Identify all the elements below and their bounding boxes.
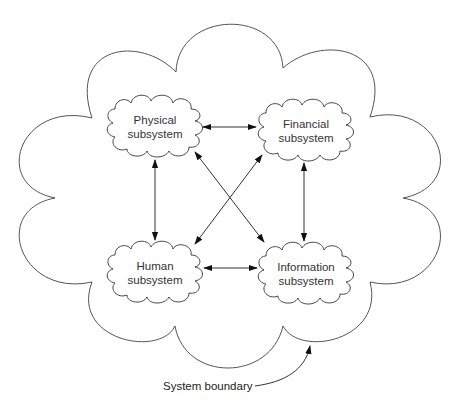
system-boundary-label: System boundary <box>163 380 253 392</box>
financial-line1: Financial <box>279 117 334 131</box>
information-subsystem-label: Information subsystem <box>277 260 335 288</box>
human-line1: Human <box>128 259 183 273</box>
financial-subsystem-label: Financial subsystem <box>279 117 334 145</box>
system-boundary-cloud <box>19 24 440 368</box>
system-diagram <box>0 0 460 408</box>
information-line1: Information <box>277 260 335 274</box>
physical-line1: Physical <box>128 113 183 127</box>
physical-line2: subsystem <box>128 127 183 141</box>
human-subsystem-label: Human subsystem <box>128 259 183 287</box>
human-line2: subsystem <box>128 273 183 287</box>
information-line2: subsystem <box>277 274 335 288</box>
financial-line2: subsystem <box>279 131 334 145</box>
physical-subsystem-label: Physical subsystem <box>128 113 183 141</box>
